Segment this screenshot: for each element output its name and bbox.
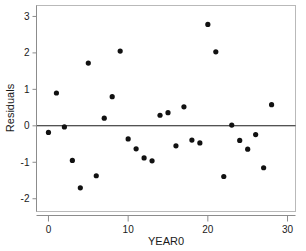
residual-scatter-figure: -2-10123 0102030 Residuals YEAR0 bbox=[0, 0, 306, 251]
scatter-point bbox=[110, 94, 115, 99]
scatter-point bbox=[46, 130, 51, 135]
y-tick-label: 1 bbox=[24, 84, 30, 95]
scatter-point bbox=[126, 136, 131, 141]
scatter-point bbox=[173, 143, 178, 148]
scatter-point bbox=[141, 155, 146, 160]
scatter-point bbox=[261, 165, 266, 170]
scatter-point bbox=[102, 116, 107, 121]
scatter-point bbox=[221, 174, 226, 179]
y-tick-label: 0 bbox=[24, 120, 30, 131]
scatter-point bbox=[269, 102, 274, 107]
y-tick-label: -2 bbox=[21, 193, 30, 204]
scatter-point bbox=[189, 137, 194, 142]
scatter-point bbox=[54, 90, 59, 95]
x-tick-label: 20 bbox=[202, 224, 214, 235]
scatter-point bbox=[213, 49, 218, 54]
scatter-plot-screenshot: -2-10123 0102030 Residuals YEAR0 bbox=[0, 0, 306, 251]
y-axis-title: Residuals bbox=[4, 83, 16, 132]
scatter-point bbox=[134, 146, 139, 151]
scatter-point bbox=[118, 48, 123, 53]
scatter-point bbox=[253, 132, 258, 137]
scatter-point bbox=[205, 22, 210, 27]
scatter-point bbox=[181, 104, 186, 109]
scatter-point bbox=[245, 147, 250, 152]
x-tick-label: 0 bbox=[46, 224, 52, 235]
y-tick-label: -1 bbox=[21, 157, 30, 168]
scatter-point bbox=[86, 61, 91, 66]
scatter-point bbox=[157, 113, 162, 118]
scatter-point bbox=[70, 158, 75, 163]
scatter-point bbox=[62, 124, 67, 129]
x-axis-title: YEAR0 bbox=[148, 235, 184, 247]
scatter-point bbox=[197, 140, 202, 145]
x-tick-label: 30 bbox=[282, 224, 294, 235]
scatter-point bbox=[237, 138, 242, 143]
scatter-point bbox=[165, 110, 170, 115]
y-tick-label: 3 bbox=[24, 11, 30, 22]
scatter-point bbox=[78, 185, 83, 190]
scatter-point bbox=[229, 122, 234, 127]
scatter-point bbox=[94, 173, 99, 178]
plot-canvas: -2-10123 0102030 Residuals YEAR0 bbox=[0, 0, 306, 251]
y-tick-label: 2 bbox=[24, 47, 30, 58]
scatter-point bbox=[149, 158, 154, 163]
x-tick-label: 10 bbox=[123, 224, 135, 235]
